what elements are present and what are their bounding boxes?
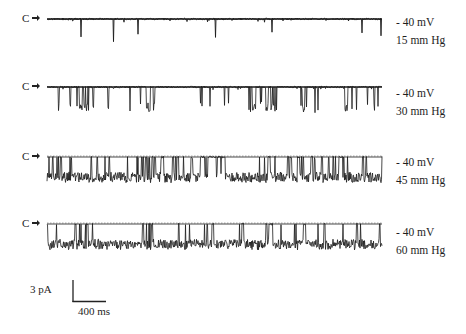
voltage-label: - 40 mV	[396, 86, 445, 101]
pressure-label: 60 mm Hg	[396, 243, 445, 258]
arrow-right-icon	[32, 85, 37, 87]
closed-state-text: C	[22, 150, 29, 162]
trace-condition-15: - 40 mV 15 mm Hg	[396, 15, 445, 48]
arrow-right-icon	[32, 155, 37, 157]
pressure-label: 45 mm Hg	[396, 173, 445, 188]
current-trace-1	[47, 18, 382, 42]
closed-state-label: C	[22, 151, 37, 162]
voltage-label: - 40 mV	[396, 225, 445, 240]
current-trace-2	[47, 86, 382, 113]
trace-condition-45: - 40 mV 45 mm Hg	[396, 155, 445, 188]
scale-current-label: 3 pA	[30, 283, 52, 295]
arrow-right-icon	[32, 222, 37, 224]
closed-state-label: C	[22, 81, 37, 92]
arrow-right-icon	[32, 17, 37, 19]
voltage-label: - 40 mV	[396, 15, 445, 30]
closed-state-label: C	[22, 218, 37, 229]
pressure-label: 30 mm Hg	[396, 104, 445, 119]
current-trace-4	[47, 223, 382, 250]
scale-bar	[72, 280, 106, 302]
closed-state-text: C	[22, 12, 29, 24]
scale-time-label: 400 ms	[78, 305, 110, 317]
voltage-label: - 40 mV	[396, 155, 445, 170]
closed-state-text: C	[22, 80, 29, 92]
trace-condition-30: - 40 mV 30 mm Hg	[396, 86, 445, 119]
current-trace-3	[47, 156, 382, 183]
closed-state-text: C	[22, 217, 29, 229]
trace-condition-60: - 40 mV 60 mm Hg	[396, 225, 445, 258]
single-channel-recording-figure: C C C C - 40 mV 15 mm Hg - 40 mV 30 mm H…	[0, 0, 466, 334]
closed-state-label: C	[22, 13, 37, 24]
pressure-label: 15 mm Hg	[396, 33, 445, 48]
